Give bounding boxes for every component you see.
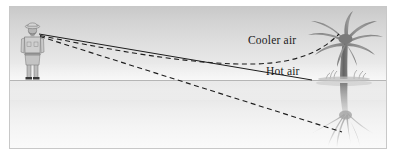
- mirage-reflection: [312, 80, 374, 148]
- palm-crown: [339, 34, 353, 44]
- mirage-diagram-figure: Cooler air Hot air: [0, 0, 396, 164]
- hot-air-label: Hot air: [266, 65, 300, 77]
- palm-tree: [308, 11, 383, 82]
- mirage-crown: [339, 111, 352, 120]
- observer-belt: [25, 53, 40, 55]
- observer-figure: [21, 23, 44, 80]
- diagram-overlay: [10, 7, 387, 149]
- observer-arm-left: [21, 38, 25, 53]
- scene-panel: Cooler air Hot air: [9, 6, 387, 149]
- observer-leg-right: [34, 64, 38, 78]
- observer-boot-right: [33, 77, 40, 80]
- cooler-air-label: Cooler air: [248, 34, 296, 46]
- observer-boot-left: [26, 77, 33, 80]
- observer-shorts: [25, 54, 40, 65]
- observer-arm-right: [41, 38, 45, 53]
- observer-helmet-dome: [28, 23, 38, 26]
- mirage-trunk: [340, 83, 348, 115]
- lower-refracted-ray: [40, 37, 342, 133]
- observer-leg-left: [27, 64, 31, 78]
